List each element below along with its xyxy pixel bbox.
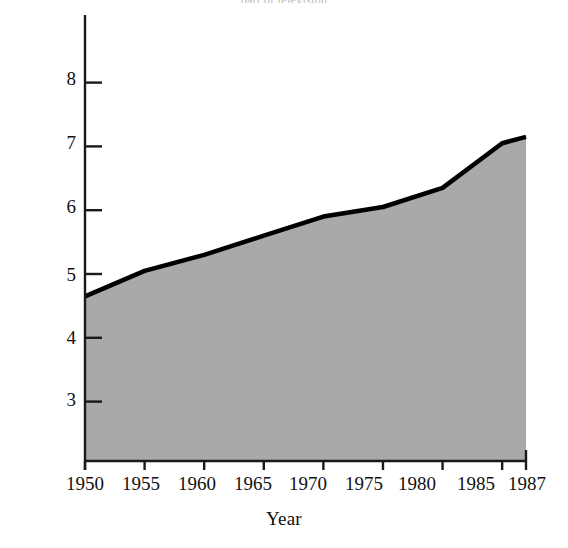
chart-plot-area <box>0 0 568 548</box>
chart-figure: part of television Hours Spent Viewing p… <box>0 0 568 548</box>
area-fill <box>85 137 526 461</box>
area-series <box>85 137 526 461</box>
